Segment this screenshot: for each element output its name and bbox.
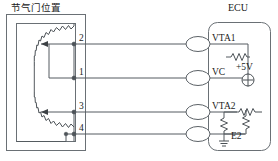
ecu-terminal-label-vta2: VTA2 xyxy=(212,101,236,111)
ground-symbol-e2 xyxy=(219,141,229,146)
wiper-upper-arrow xyxy=(41,41,48,47)
connector-pin-vc xyxy=(186,71,210,86)
potentiometer-track-upper xyxy=(34,26,74,67)
potentiometer-track-lower xyxy=(34,92,74,128)
schematic-canvas: 节气门位置 ECU 2 1 3 4 VTA1 VC VTA2 E2 +5V xyxy=(0,0,278,161)
ecu-title: ECU xyxy=(228,2,249,13)
resistor-series-vta2 xyxy=(239,109,262,116)
ecu-terminal-label-e2: E2 xyxy=(231,131,242,141)
resistor-pullup-vta1 xyxy=(231,54,250,61)
sensor-return-conductor xyxy=(17,134,67,142)
connector-pin-e2 xyxy=(186,127,210,142)
ecu-terminal-label-vta1: VTA1 xyxy=(212,33,236,43)
ecu-terminal-label-vc: VC xyxy=(212,67,225,77)
terminal-number-1: 1 xyxy=(79,67,84,77)
throttle-position-sensor-schematic: 节气门位置 ECU 2 1 3 4 VTA1 VC VTA2 E2 +5V xyxy=(0,0,278,161)
resistor-divider-left xyxy=(221,118,228,134)
terminal-number-2: 2 xyxy=(79,33,84,43)
connector-pin-vta2 xyxy=(186,105,210,120)
supply-voltage-label: +5V xyxy=(236,62,253,72)
terminal-number-4: 4 xyxy=(79,123,84,133)
connector-pin-vta1 xyxy=(186,37,210,52)
sensor-inner-box xyxy=(17,24,76,142)
resistor-divider-right xyxy=(243,116,250,134)
sensor-title: 节气门位置 xyxy=(11,2,61,13)
terminal-number-3: 3 xyxy=(79,101,84,111)
wiper-lower-arrow xyxy=(41,109,48,115)
